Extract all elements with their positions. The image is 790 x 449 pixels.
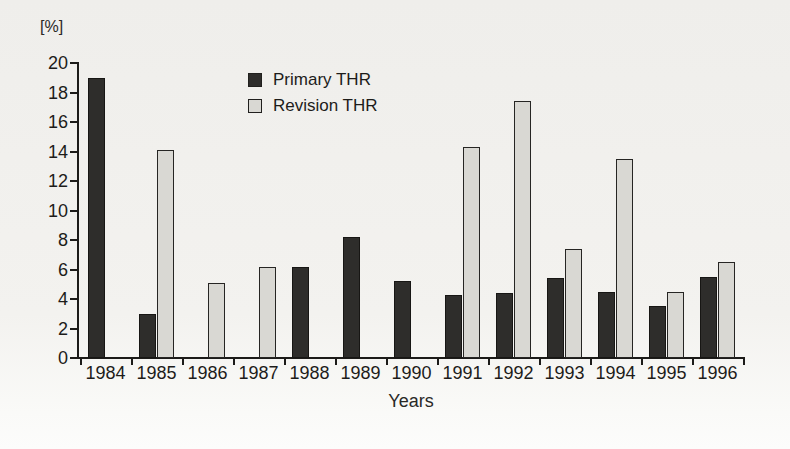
y-axis-line (77, 62, 79, 359)
y-tick (70, 62, 77, 64)
revision-thr-swatch-icon (248, 99, 262, 113)
y-tick-label: 0 (18, 348, 68, 368)
bar-primary-1991 (445, 295, 462, 358)
bar-primary-1994 (598, 292, 615, 358)
legend-label-revision-thr: Revision THR (273, 97, 378, 114)
y-tick-label: 2 (18, 319, 68, 339)
x-axis-title: Years (351, 391, 471, 412)
primary-thr-swatch-icon (248, 73, 262, 87)
y-tick (70, 210, 77, 212)
bar-primary-1984 (88, 78, 105, 358)
bar-revision-1986 (208, 283, 225, 358)
y-tick-label: 14 (18, 142, 68, 162)
bar-revision-1995 (667, 292, 684, 358)
bar-primary-1989 (343, 237, 360, 358)
y-tick (70, 180, 77, 182)
y-tick (70, 239, 77, 241)
y-tick (70, 92, 77, 94)
bar-primary-1993 (547, 278, 564, 358)
bar-primary-1996 (700, 277, 717, 358)
y-tick-label: 6 (18, 260, 68, 280)
legend-label-primary-thr: Primary THR (273, 71, 371, 88)
y-tick-label: 8 (18, 230, 68, 250)
bar-revision-1985 (157, 150, 174, 358)
bar-primary-1995 (649, 306, 666, 358)
y-tick-label: 4 (18, 289, 68, 309)
y-tick-label: 12 (18, 171, 68, 191)
y-tick (70, 298, 77, 300)
y-tick (70, 269, 77, 271)
y-tick (70, 357, 77, 359)
y-tick (70, 328, 77, 330)
y-tick-label: 10 (18, 201, 68, 221)
legend-entry-revision-thr: Revision THR (248, 97, 378, 114)
y-tick-label: 16 (18, 112, 68, 132)
legend: Primary THR Revision THR (248, 71, 378, 123)
bar-chart-figure: [%] 024681012141618201984198519861987198… (0, 0, 790, 449)
y-tick-label: 20 (18, 53, 68, 73)
bar-revision-1991 (463, 147, 480, 358)
y-axis-unit-label: [%] (40, 18, 63, 36)
bar-revision-1994 (616, 159, 633, 358)
legend-entry-primary-thr: Primary THR (248, 71, 378, 88)
bar-primary-1988 (292, 267, 309, 358)
bar-revision-1996 (718, 262, 735, 358)
bar-primary-1992 (496, 293, 513, 358)
x-tick-label: 1996 (688, 363, 748, 383)
bar-revision-1993 (565, 249, 582, 358)
bar-primary-1990 (394, 281, 411, 358)
bar-primary-1985 (139, 314, 156, 358)
y-tick (70, 151, 77, 153)
x-axis-line (77, 357, 745, 359)
y-tick (70, 121, 77, 123)
bar-revision-1987 (259, 267, 276, 358)
y-tick-label: 18 (18, 83, 68, 103)
bar-revision-1992 (514, 101, 531, 358)
